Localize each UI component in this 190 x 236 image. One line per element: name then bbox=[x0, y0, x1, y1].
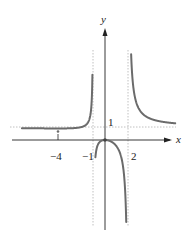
y-axis-arrow-icon bbox=[103, 28, 108, 36]
x-axis-label: x bbox=[176, 134, 181, 145]
point-local-max bbox=[103, 138, 107, 142]
x-tick-label-2: 2 bbox=[131, 151, 137, 162]
y-axis-label: y bbox=[101, 14, 106, 25]
curve-right-branch bbox=[131, 54, 175, 123]
point-local-min bbox=[57, 130, 60, 133]
y-tick-label-1: 1 bbox=[108, 117, 114, 128]
x-axis-arrow-icon bbox=[164, 138, 172, 143]
function-graph bbox=[0, 0, 190, 236]
curve-left-branch bbox=[22, 75, 92, 129]
x-tick-label-neg1: −1 bbox=[82, 151, 94, 162]
x-tick-label-neg4: −4 bbox=[50, 151, 62, 162]
curve-middle-branch bbox=[95, 140, 126, 222]
